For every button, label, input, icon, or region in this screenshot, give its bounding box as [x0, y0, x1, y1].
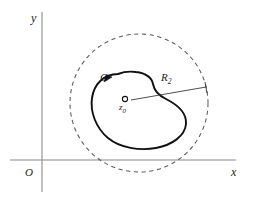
center-label-subscript: 0 [123, 107, 127, 115]
x-axis-label: x [230, 165, 237, 179]
y-axis-label: y [30, 11, 37, 25]
contour-label: C [100, 71, 108, 83]
center-point-marker-icon [122, 96, 127, 101]
complex-plane-figure: y x O C z0 R2 [0, 0, 253, 200]
origin-label: O [25, 166, 33, 178]
radius-label-subscript: 2 [168, 77, 172, 86]
